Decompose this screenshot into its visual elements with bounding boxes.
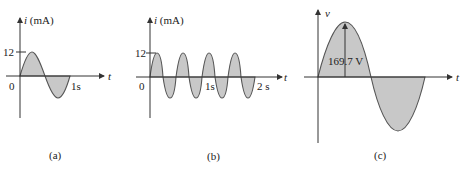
origin-label-b: 0 <box>139 80 145 92</box>
x-axis-label-c: t <box>456 71 460 83</box>
caption-c: (c) <box>374 149 387 162</box>
time-label-a: 1s <box>71 80 81 92</box>
time-label-b-2s: 2 s <box>257 80 270 92</box>
x-axis-label-a: t <box>108 70 112 82</box>
sine-wave-b <box>150 53 255 98</box>
caption-b: (b) <box>207 150 220 163</box>
caption-a: (a) <box>49 149 62 162</box>
panel-a: i (mA) t 12 0 1s (a) <box>3 14 112 162</box>
peak-label-a: 12 <box>3 46 14 58</box>
y-axis-label-a: i (mA) <box>24 14 54 27</box>
panel-c: v t 169.7 V (c) <box>304 7 460 162</box>
y-axis-label-b: i (mA) <box>154 14 184 27</box>
peak-annotation-c: 169.7 V <box>328 55 363 67</box>
peak-label-b: 12 <box>135 47 146 59</box>
origin-label-a: 0 <box>9 80 15 92</box>
time-label-b-1s: 1s <box>205 80 215 92</box>
sine-waveform-diagram: i (mA) t 12 0 1s (a) i (mA) t 12 0 1s 2 … <box>0 0 466 176</box>
x-axis-label-b: t <box>284 71 288 83</box>
sine-wave-a <box>20 52 70 98</box>
y-axis-label-c: v <box>325 7 330 19</box>
panel-b: i (mA) t 12 0 1s 2 s (b) <box>135 14 288 163</box>
